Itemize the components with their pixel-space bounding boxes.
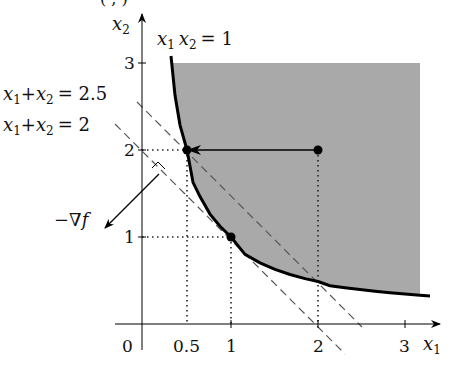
x-tick-0.5: 0.5 — [173, 336, 200, 356]
top-cut-label: (·,·) — [100, 0, 128, 8]
level-2-label: x1+x2= 2 — [3, 114, 90, 138]
origin-label: 0 — [122, 336, 133, 356]
y-tick-1: 1 — [124, 227, 135, 247]
y-tick-2: 2 — [124, 140, 135, 160]
point-optimum — [227, 233, 236, 242]
constraint-label: x1x2= 1 — [157, 28, 233, 52]
y-tick-3: 3 — [124, 53, 135, 73]
x-tick-3: 3 — [399, 336, 410, 356]
level-2.5-label: x1+x2= 2.5 — [3, 83, 107, 107]
optimization-diagram: (·,·) x2 x1 0 0.5 1 2 3 1 2 3 x1x2= 1 x1… — [0, 0, 455, 365]
neg-gradient-label: −∇f — [54, 209, 92, 230]
x-axis-label: x1 — [423, 333, 441, 357]
x-tick-2: 2 — [313, 336, 324, 356]
x-tick-1: 1 — [226, 336, 237, 356]
point-start — [314, 146, 323, 155]
y-axis-label: x2 — [112, 13, 130, 37]
point-projection — [183, 146, 192, 155]
neg-gradient-arrow — [105, 162, 165, 228]
